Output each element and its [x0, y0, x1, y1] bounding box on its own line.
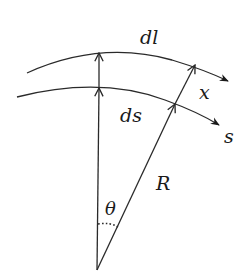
vertical-radius-line [97, 88, 99, 270]
angle-arc [98, 223, 118, 227]
slanted-offset-line [175, 65, 195, 104]
label-theta: θ [105, 198, 116, 219]
curvature-diagram: dl ds x s R θ [0, 0, 252, 280]
inner-arc [17, 87, 219, 125]
label-x: x [199, 81, 210, 103]
label-s: s [224, 125, 234, 147]
label-ds: ds [120, 104, 142, 126]
label-dl: dl [140, 26, 158, 48]
label-R: R [155, 172, 170, 194]
outer-arc [27, 52, 228, 81]
